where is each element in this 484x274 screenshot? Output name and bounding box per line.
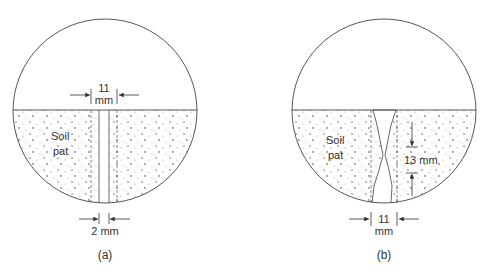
bottom-dim-label: 2 mm bbox=[91, 225, 119, 237]
caption-a: (a) bbox=[98, 248, 113, 262]
soil-label-1: Soil bbox=[51, 130, 69, 142]
soil-label-1: Soil bbox=[326, 134, 344, 146]
groove bbox=[99, 110, 109, 210]
top-dim-value: 11 bbox=[98, 82, 109, 94]
panel-b: Soil pat 13 mm 11 mm (b) bbox=[292, 19, 476, 262]
bottom-dim-unit: mm bbox=[375, 225, 393, 237]
caption-b: (b) bbox=[377, 248, 392, 262]
panel-a: Soil pat 11 mm 2 mm (a) bbox=[13, 19, 197, 262]
soil-pat-diagram: Soil pat 11 mm 2 mm (a) Soil pat 13 mm bbox=[0, 0, 484, 274]
bottom-dim-value: 11 bbox=[378, 213, 389, 225]
top-dim-unit: mm bbox=[95, 94, 113, 106]
soil-label-2: pat bbox=[53, 145, 68, 157]
side-dim-label: 13 mm bbox=[404, 154, 438, 166]
soil-label-2: pat bbox=[328, 149, 343, 161]
